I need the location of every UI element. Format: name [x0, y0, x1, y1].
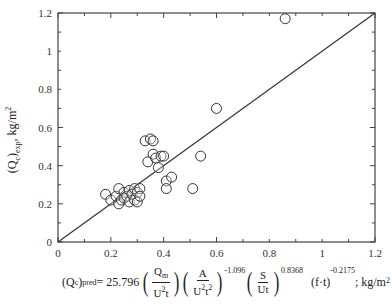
paren-open: ( — [247, 268, 253, 296]
fraction-qm: Qm U2t — [152, 265, 171, 300]
formula-coefficient: = 25.796 — [96, 275, 139, 290]
scatter-chart: 00.20.40.60.811.2 00.20.40.60.811.2 — [0, 0, 392, 308]
frac1-den: U — [154, 286, 162, 298]
x-tick-label: 0.4 — [157, 247, 171, 259]
paren-close: ) — [273, 268, 279, 296]
formula-unit-sup: 2 — [386, 276, 390, 285]
data-points — [101, 14, 291, 209]
formula-unit: ; kg/m — [355, 275, 386, 290]
frac1-num-sub: m — [162, 271, 168, 280]
y-tick-label: 0.2 — [38, 198, 52, 210]
y-axis-label: (Qc)exp, kg/m2 — [2, 60, 24, 220]
ylabel-close: ) — [5, 153, 19, 157]
x-tick-label: 1 — [319, 247, 325, 259]
ylabel-sub-c: c — [13, 157, 22, 161]
formula-lhs: (Q — [62, 275, 75, 290]
paren-close: ) — [217, 268, 223, 296]
data-point — [148, 136, 158, 146]
y-tick-label: 0.8 — [38, 83, 52, 95]
ylabel-sub-exp: exp — [13, 141, 22, 153]
data-point — [161, 184, 171, 194]
frac2-den: U — [193, 284, 201, 296]
y-tick-label: 1 — [47, 45, 53, 57]
data-point — [188, 184, 198, 194]
x-tick-label: 0.2 — [104, 247, 118, 259]
y-tick-label: 0.4 — [38, 160, 52, 172]
paren-open: ( — [183, 268, 189, 296]
frac3-num: S — [260, 269, 266, 281]
y-tick-label: 1.2 — [38, 7, 52, 19]
fraction-a: A U2t2 — [191, 267, 214, 298]
formula-ft: (f·t) — [311, 275, 330, 290]
identity-line — [58, 13, 375, 242]
y-tick-label: 0 — [47, 236, 53, 248]
frac3-exponent: 0.8368 — [281, 266, 303, 275]
ft-exponent: -0.2175 — [330, 266, 355, 275]
data-point — [212, 103, 222, 113]
paren-close: ) — [173, 268, 179, 296]
data-point — [280, 14, 290, 24]
ylabel-unit-sup: 2 — [4, 107, 13, 111]
frac3-den: Ut — [258, 283, 269, 295]
x-tick-labels: 00.20.40.60.811.2 — [55, 247, 382, 259]
frac1-num: Q — [154, 265, 162, 277]
x-tick-label: 0.8 — [262, 247, 276, 259]
data-point — [153, 163, 163, 173]
data-point — [159, 151, 169, 161]
fraction-s: S Ut — [256, 269, 271, 296]
frac2-den-t-sup: 2 — [208, 283, 212, 292]
y-tick-labels: 00.20.40.60.811.2 — [38, 7, 52, 248]
data-point — [135, 191, 145, 201]
paren-open: ( — [143, 268, 149, 296]
ylabel-unit: , kg/m — [5, 111, 19, 142]
x-tick-label: 0.6 — [210, 247, 224, 259]
data-point — [167, 172, 177, 182]
x-tick-label: 0 — [55, 247, 61, 259]
frac1-den-t: t — [166, 286, 169, 298]
x-axis-formula-label: (Qc)pred = 25.796 ( Qm U2t ) ( A U2t2 ) … — [62, 264, 390, 300]
y-tick-label: 0.6 — [38, 122, 52, 134]
frac2-num: A — [199, 267, 207, 279]
ylabel-q: (Q — [5, 161, 19, 174]
formula-lhs-pred: pred — [82, 278, 96, 287]
frac2-exponent: -1.096 — [225, 266, 246, 275]
x-tick-label: 1.2 — [368, 247, 382, 259]
data-point — [196, 151, 206, 161]
